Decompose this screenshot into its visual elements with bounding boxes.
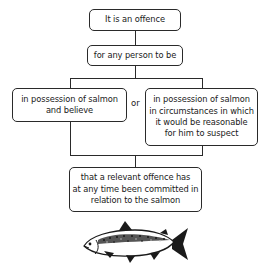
- or-label: or: [131, 98, 140, 108]
- node-relevant-offence: that a relevant offence has at any time …: [69, 167, 202, 212]
- connector-left-down: [70, 122, 71, 156]
- connector-split-horizontal: [70, 78, 203, 79]
- connector-merge-down: [135, 155, 136, 167]
- node-possession-and-believe: in possession of salmon and believe: [12, 88, 127, 122]
- node-text-line: at any time been committed in: [73, 184, 199, 195]
- node-text-line: that a relevant offence has: [81, 172, 191, 183]
- node-text-line: for him to suspect: [165, 128, 239, 139]
- node-text: for any person to be: [94, 50, 176, 61]
- node-text-line: in possession of salmon: [21, 94, 118, 105]
- node-text-line: in possession of salmon: [153, 94, 250, 105]
- salmon-fish-icon: [80, 218, 192, 266]
- node-it-is-an-offence: It is an offence: [89, 9, 181, 31]
- node-text-line: it would be reasonable: [155, 117, 247, 128]
- node-possession-reasonable-suspect: in possession of salmon in circumstances…: [145, 88, 258, 146]
- node-text: It is an offence: [105, 14, 165, 25]
- connector-merge-horizontal: [70, 155, 203, 156]
- node-text-line: in circumstances in which: [149, 106, 254, 117]
- node-for-any-person: for any person to be: [87, 45, 183, 66]
- connector-1-2: [135, 31, 136, 45]
- node-text-line: relation to the salmon: [91, 195, 180, 206]
- connector-2-split: [135, 66, 136, 78]
- connector-split-left: [70, 78, 71, 88]
- connector-split-right: [202, 78, 203, 88]
- node-text-line: and believe: [46, 105, 93, 116]
